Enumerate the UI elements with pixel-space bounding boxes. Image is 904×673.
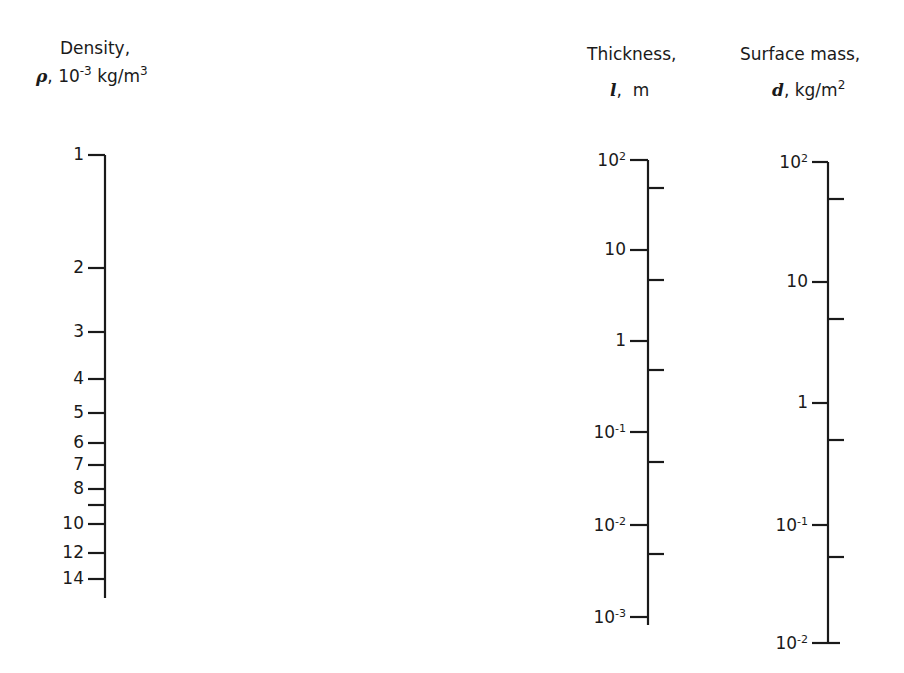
density-tick-label: 12 <box>34 544 84 561</box>
density-tick-label: 10 <box>34 515 84 532</box>
density-tick-label: 14 <box>34 570 84 587</box>
surface-mass-tick-label: 102 <box>758 153 808 171</box>
surface-mass-tick-label: 10-1 <box>758 516 808 534</box>
density-tick-label: 5 <box>34 404 84 421</box>
density-tick-label: 7 <box>34 456 84 473</box>
density-tick-label: 2 <box>34 259 84 276</box>
density-tick-label: 3 <box>34 323 84 340</box>
surface-mass-tick-label: 10-2 <box>758 634 808 652</box>
thickness-tick-label: 102 <box>576 151 626 169</box>
thickness-tick-label: 10-3 <box>576 608 626 626</box>
thickness-tick-label: 10-1 <box>576 423 626 441</box>
nomogram-axes <box>0 0 904 673</box>
density-tick-label: 8 <box>34 480 84 497</box>
density-tick-label: 4 <box>34 370 84 387</box>
thickness-tick-label: 10-2 <box>576 516 626 534</box>
surface-mass-tick-label: 1 <box>758 394 808 411</box>
surface-mass-tick-label: 10 <box>758 273 808 290</box>
thickness-tick-label: 1 <box>576 332 626 349</box>
density-tick-label: 1 <box>34 146 84 163</box>
density-tick-label: 6 <box>34 434 84 451</box>
thickness-tick-label: 10 <box>576 241 626 258</box>
